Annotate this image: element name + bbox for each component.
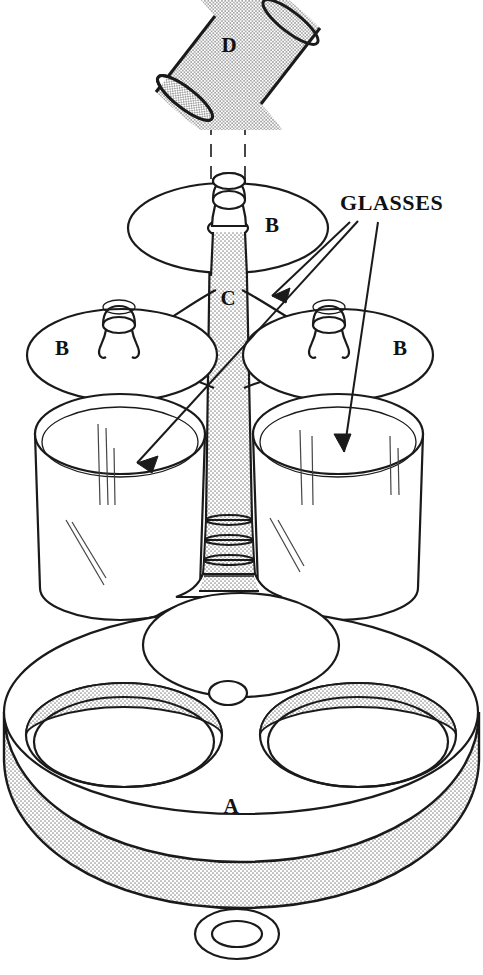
part-d-handle-rod: D xyxy=(140,0,340,130)
label-part-b-left: B xyxy=(55,336,69,360)
label-part-c: C xyxy=(220,286,235,310)
tumbler-glass-right xyxy=(253,394,423,620)
part-b-holder-left: B xyxy=(27,300,217,401)
label-glasses: GLASSES xyxy=(340,190,443,215)
base-well-right xyxy=(260,683,456,787)
patent-figure-svg: D C xyxy=(0,0,483,975)
part-b-holder-top: B xyxy=(128,173,328,276)
base-well-left xyxy=(26,683,222,787)
part-a-base-disc: A xyxy=(4,593,479,908)
label-part-b-right: B xyxy=(393,336,407,360)
detached-washer-ring xyxy=(195,909,279,959)
label-part-b-top: B xyxy=(265,213,279,237)
label-part-d: D xyxy=(221,33,236,57)
base-center-hole xyxy=(209,681,247,705)
figure-canvas: D C xyxy=(0,0,483,975)
label-part-a: A xyxy=(223,794,239,818)
tumbler-glass-left xyxy=(35,394,205,620)
